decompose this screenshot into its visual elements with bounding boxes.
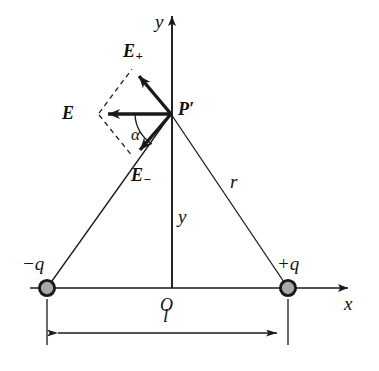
height-y-label: y: [178, 207, 186, 226]
negative-charge-label: −q: [22, 254, 44, 273]
dashed-parallelogram-lower: [99, 115, 133, 157]
figure-canvas: [0, 0, 379, 371]
vector-e-plus-subscript: +: [135, 48, 143, 63]
distance-r-label: r: [230, 172, 237, 191]
segment-to-negative-charge: [47, 114, 171, 288]
segment-to-positive-charge: [171, 114, 288, 288]
dashed-parallelogram-upper: [99, 69, 132, 113]
y-axis-label: y: [155, 12, 163, 31]
dipole-field-figure: y x O P′ E+ E E− α y r −q +q l: [0, 0, 379, 371]
vector-e-minus-subscript: −: [143, 172, 151, 187]
negative-charge-marker: [39, 280, 54, 295]
vector-e-minus-label: E−: [131, 166, 151, 186]
vector-e-plus-symbol: E: [123, 41, 135, 61]
vector-e-minus: [140, 114, 171, 150]
positive-charge-marker: [280, 280, 295, 295]
positive-charge-label: +q: [277, 254, 299, 273]
vector-e-symbol: E: [62, 103, 74, 123]
angle-alpha-label: α: [131, 126, 140, 143]
vector-e-label: E: [62, 104, 74, 122]
vector-e-plus-label: E+: [123, 42, 143, 62]
separation-l-label: l: [163, 306, 168, 325]
point-p-prime-label: P′: [178, 100, 194, 118]
vector-e-plus: [139, 76, 171, 114]
vector-e-minus-symbol: E: [131, 165, 143, 185]
x-axis-label: x: [344, 294, 352, 313]
